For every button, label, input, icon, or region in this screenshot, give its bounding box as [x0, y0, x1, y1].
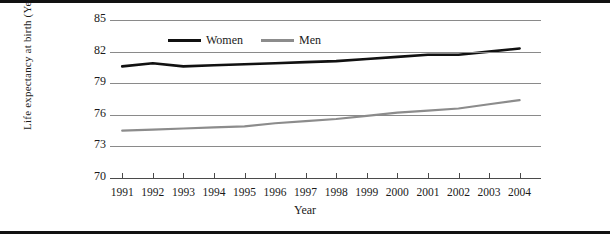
legend-swatch-men-icon	[261, 39, 294, 42]
y-tick-label: 85	[94, 11, 106, 26]
x-tick	[397, 173, 398, 179]
x-tick-label: 1997	[294, 186, 317, 198]
x-tick	[183, 173, 184, 179]
legend-label-women: Women	[206, 33, 243, 48]
x-tick-label: 2004	[508, 186, 531, 198]
x-tick-label: 1992	[141, 186, 164, 198]
x-tick	[428, 173, 429, 179]
x-tick	[459, 173, 460, 179]
legend: Women Men	[168, 33, 321, 48]
x-tick-label: 2000	[386, 186, 409, 198]
chart-figure: Life expectancy at birth (Years) 7073767…	[0, 0, 610, 234]
x-tick-label: 1998	[325, 186, 348, 198]
x-tick-label: 1994	[202, 186, 225, 198]
x-tick-label: 1993	[172, 186, 195, 198]
y-tick-label: 79	[94, 74, 106, 89]
y-tick-label: 73	[94, 137, 106, 152]
x-tick	[214, 173, 215, 179]
gridline-73	[110, 146, 541, 147]
x-tick-label: 1999	[355, 186, 378, 198]
x-tick	[336, 173, 337, 179]
legend-item-men: Men	[261, 33, 321, 48]
x-tick-label: 2002	[447, 186, 470, 198]
legend-label-men: Men	[299, 33, 321, 48]
x-tick-label: 1995	[233, 186, 256, 198]
x-tick-label: 1996	[264, 186, 287, 198]
gridline-85	[110, 20, 541, 21]
x-tick-label: 2003	[478, 186, 501, 198]
x-tick	[153, 173, 154, 179]
y-tick-label: 82	[94, 43, 106, 58]
x-tick-label: 1991	[111, 186, 134, 198]
legend-item-women: Women	[168, 33, 243, 48]
x-axis-title: Year	[0, 203, 610, 218]
x-tick	[306, 173, 307, 179]
x-tick	[520, 173, 521, 179]
legend-swatch-women-icon	[168, 39, 201, 43]
x-axis: 1991199219931994199519961997199819992000…	[110, 178, 541, 179]
x-tick	[367, 173, 368, 179]
x-tick	[489, 173, 490, 179]
x-tick	[122, 173, 123, 179]
x-tick	[275, 173, 276, 179]
y-tick-label: 70	[94, 169, 106, 184]
gridline-79	[110, 83, 541, 84]
gridline-76	[110, 115, 541, 116]
y-tick-label: 76	[94, 106, 106, 121]
x-tick	[245, 173, 246, 179]
y-axis-title: Life expectancy at birth (Years)	[21, 0, 33, 142]
x-tick-label: 2001	[416, 186, 439, 198]
gridline-82	[110, 52, 541, 53]
